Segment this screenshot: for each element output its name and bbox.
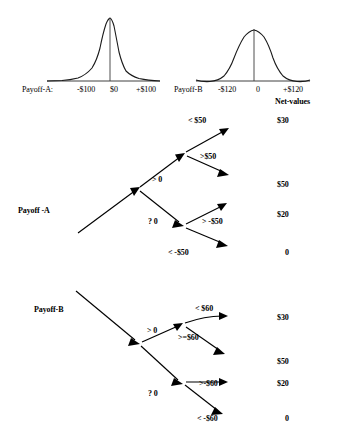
tree-a-net-value-3: $20 (277, 211, 289, 219)
tree-b-branch-label-gt0: > 0 (147, 327, 157, 335)
tree-a-leaf-label-3: > -$50 (202, 218, 223, 226)
tree-b-leaf-label-4: < -$60 (197, 415, 218, 423)
tree-a-upper-node-marker (175, 153, 185, 162)
payoff-a-tick-positive: +$100 (136, 86, 156, 94)
tree-b-net-value-3: $20 (277, 380, 289, 388)
tree-b-net-value-2: $50 (277, 358, 289, 366)
tree-a-edge-lt50 (186, 131, 224, 152)
tree-a-edge-q0 (140, 191, 179, 222)
tree-a-branch-label-gt0: > 0 (152, 176, 162, 184)
payoff-b-tick-zero: 0 (256, 86, 260, 94)
tree-a-leaf-arrow-1 (219, 128, 229, 136)
payoff-b-tick-negative: -$120 (218, 86, 236, 94)
tree-b-leaf-label-1: < $60 (195, 305, 213, 313)
payoff-a-tree-title: Payoff -A (18, 207, 50, 215)
payoff-b-tree-title: Payoff-B (34, 306, 63, 314)
tree-a-leaf-label-1: < $50 (188, 117, 206, 125)
tree-a-root-node-marker (130, 187, 140, 196)
payoff-a-tick-negative: -$100 (77, 86, 95, 94)
tree-b-leaf-label-3: >-$60 (199, 380, 218, 388)
tree-a-edge-ltm50 (186, 228, 222, 243)
tree-a-leaf-label-2: >$50 (200, 153, 216, 161)
payoff-a-series-label: Payoff-A: (22, 86, 53, 94)
figure-canvas: Payoff-A: -$100 $0 +$100 Payoff-B -$120 … (0, 0, 341, 446)
payoff-a-distribution-plot (47, 18, 160, 81)
tree-a-trunk (78, 190, 136, 233)
tree-b-edge-lt60 (185, 316, 222, 323)
tree-a-branch-label-q0: ? 0 (148, 218, 158, 226)
tree-b-trunk (76, 291, 135, 340)
tree-b-leaf-arrow-2 (213, 347, 225, 355)
payoff-b-distribution-plot (196, 29, 310, 82)
payoff-b-curve (196, 30, 310, 82)
tree-a-net-value-2: $50 (277, 181, 289, 189)
tree-b-branch-label-q0: ? 0 (148, 390, 158, 398)
payoff-a-curve (47, 18, 160, 81)
tree-a-net-value-1: $30 (277, 117, 289, 125)
tree-b-edge-ltm60 (185, 385, 217, 410)
tree-a-leaf-label-4: < -$50 (168, 249, 189, 257)
tree-b-edge-q0 (141, 346, 178, 380)
net-values-header: Net-values (275, 98, 310, 106)
tree-b-net-value-1: $30 (277, 314, 289, 322)
payoff-b-series-label: Payoff-B (174, 86, 202, 94)
payoff-a-tree-edges (78, 128, 229, 248)
payoff-a-tick-zero: $0 (110, 86, 118, 94)
figure-vector-layer (0, 0, 341, 446)
tree-a-leaf-arrow-3 (217, 203, 227, 211)
tree-b-leaf-arrow-3 (219, 378, 228, 386)
tree-b-net-value-4: 0 (285, 415, 289, 423)
payoff-b-tick-positive: +$120 (283, 86, 303, 94)
tree-a-net-value-4: 0 (285, 249, 289, 257)
tree-b-leaf-label-2: >=$60 (178, 334, 199, 342)
tree-b-leaf-arrow-1 (219, 312, 228, 320)
